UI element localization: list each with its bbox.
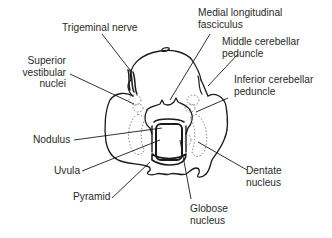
leader-superior-vestibular-nuclei xyxy=(70,74,134,104)
dentate-nucleus-left xyxy=(129,114,146,155)
nodulus-shape xyxy=(156,124,182,160)
label-uvula: Uvula xyxy=(54,165,80,177)
leader-inferior-cerebellar-peduncle xyxy=(196,98,228,112)
leader-dentate-nucleus xyxy=(198,142,247,170)
leader-pyramid xyxy=(112,162,150,198)
label-superior-vestibular-nuclei: Superior vestibular nuclei xyxy=(2,55,66,90)
superior-vestibular-nuclei-left xyxy=(129,95,141,105)
pons-outline xyxy=(131,50,201,80)
bottom-outline xyxy=(146,166,206,177)
nodulus-top xyxy=(154,119,184,122)
label-pyramid: Pyramid xyxy=(73,191,110,203)
label-medial-longitudinal-fasciculus: Medial longitudinal fasciculus xyxy=(198,7,282,30)
anatomy-diagram: Trigeminal nerve Superior vestibular nuc… xyxy=(0,0,332,238)
left-hemisphere-outline xyxy=(105,93,146,166)
leader-trigeminal-nerve xyxy=(102,34,130,70)
ventricle-roof xyxy=(147,98,190,110)
pons-cap xyxy=(162,48,169,52)
label-middle-cerebellar-peduncle: Middle cerebellar peduncle xyxy=(222,36,300,59)
label-trigeminal-nerve: Trigeminal nerve xyxy=(62,22,138,34)
leader-nodulus xyxy=(74,128,162,140)
superior-vestibular-nuclei-right xyxy=(187,95,199,105)
label-globose-nucleus: Globose nucleus xyxy=(190,203,228,226)
label-nodulus: Nodulus xyxy=(33,134,70,146)
label-dentate-nucleus: Dentate nucleus xyxy=(246,165,282,188)
leader-medial-longitudinal-fasciculus xyxy=(170,34,210,100)
label-inferior-cerebellar-peduncle: Inferior cerebellar peduncle xyxy=(234,74,313,97)
